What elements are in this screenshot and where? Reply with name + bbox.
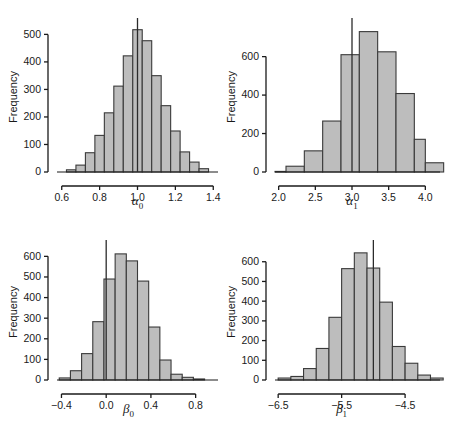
histogram-bar xyxy=(323,121,341,172)
histogram-bar xyxy=(341,55,359,172)
histogram-bar xyxy=(316,348,329,380)
histogram-bars xyxy=(278,253,443,380)
histogram-bar xyxy=(85,153,94,172)
x-axis-tick-label: −6.5 xyxy=(268,399,289,411)
histogram-bar xyxy=(380,302,393,380)
histogram-bar xyxy=(425,163,443,172)
y-axis-tick-label: 300 xyxy=(23,312,41,324)
histogram-bar xyxy=(115,254,126,380)
x-axis-tick-label: 3.5 xyxy=(381,191,396,203)
histogram-bar xyxy=(342,269,355,380)
panel-alpha0-plot: 0100200300400500Frequency0.60.81.01.21.4… xyxy=(0,0,226,216)
x-axis-title-subscript: 0 xyxy=(139,201,144,211)
y-axis-tick-label: 200 xyxy=(241,127,259,139)
y-axis-title: Frequency xyxy=(7,71,19,123)
histogram-bar xyxy=(76,165,85,172)
histogram-bar xyxy=(95,135,104,172)
histogram-bar xyxy=(359,32,377,172)
histogram-bars xyxy=(275,32,444,172)
y-axis-title: Frequency xyxy=(225,71,237,123)
y-axis-tick-label: 0 xyxy=(35,165,41,177)
histogram-bar xyxy=(396,94,414,172)
y-axis-tick-label: 100 xyxy=(23,353,41,365)
histogram-figure: 0100200300400500Frequency0.60.81.01.21.4… xyxy=(0,0,451,432)
y-axis-tick-label: 400 xyxy=(23,291,41,303)
y-axis-tick-label: 0 xyxy=(253,165,259,177)
x-axis-tick-label: 1.2 xyxy=(168,191,183,203)
y-axis-tick-label: 500 xyxy=(23,270,41,282)
histogram-bar xyxy=(93,322,104,380)
histogram-bar xyxy=(392,346,405,380)
histogram-bar xyxy=(82,354,93,380)
histogram-bar xyxy=(304,151,322,172)
y-axis-tick-label: 600 xyxy=(241,50,259,62)
x-axis-tick-label: 0.4 xyxy=(144,399,159,411)
x-axis-tick-label: 2.0 xyxy=(271,191,286,203)
histogram-bar xyxy=(138,281,149,380)
y-axis-tick-label: 200 xyxy=(23,332,41,344)
histogram-bar xyxy=(304,369,317,380)
y-axis-tick-label: 0 xyxy=(253,373,259,385)
histogram-bar xyxy=(160,360,171,380)
histogram-bar xyxy=(152,76,161,172)
y-axis-tick-label: 600 xyxy=(241,255,259,267)
x-axis-title-subscript: 1 xyxy=(353,201,358,211)
histogram-bar xyxy=(190,162,199,172)
y-axis-tick-label: 300 xyxy=(241,314,259,326)
histogram-bar xyxy=(114,86,123,172)
histogram-bar xyxy=(286,166,304,172)
y-axis-tick-label: 0 xyxy=(35,373,41,385)
y-axis-title: Frequency xyxy=(7,286,19,338)
y-axis-tick-label: 300 xyxy=(23,83,41,95)
histogram-bar xyxy=(354,253,367,380)
histogram-bar xyxy=(405,363,418,380)
histogram-bar xyxy=(126,261,137,380)
y-axis-title: Frequency xyxy=(225,286,237,338)
histogram-bar xyxy=(329,317,342,380)
y-axis-tick-label: 600 xyxy=(23,250,41,262)
x-axis-title-subscript: 0 xyxy=(130,409,135,419)
x-axis-title: β0 xyxy=(122,401,134,419)
x-axis-tick-label: −4.5 xyxy=(395,399,416,411)
x-axis-tick-label: 1.4 xyxy=(206,191,221,203)
y-axis-tick-label: 200 xyxy=(241,334,259,346)
histogram-bar xyxy=(70,371,81,380)
y-axis-tick-label: 500 xyxy=(23,28,41,40)
histogram-bar xyxy=(142,41,151,172)
histogram-bar xyxy=(123,56,132,172)
panel-beta1-plot: 0100200300400500600Frequency−6.5−5.5−4.5… xyxy=(225,216,451,432)
histogram-bars xyxy=(59,254,204,380)
panel-alpha1: 0200400600Frequency2.02.53.03.54.0α1 xyxy=(225,0,451,216)
histogram-bar xyxy=(418,375,431,380)
x-axis-tick-label: 4.0 xyxy=(418,191,433,203)
panel-beta0-plot: 0100200300400500600Frequency−0.40.00.40.… xyxy=(0,216,226,432)
panel-beta0: 0100200300400500600Frequency−0.40.00.40.… xyxy=(0,216,226,432)
histogram-bar xyxy=(180,152,189,172)
x-axis-title-subscript: 1 xyxy=(343,409,348,419)
histogram-bar xyxy=(161,106,170,172)
panel-alpha0: 0100200300400500Frequency0.60.81.01.21.4… xyxy=(0,0,226,216)
x-axis-tick-label: 2.5 xyxy=(308,191,323,203)
histogram-bar xyxy=(171,131,180,172)
y-axis-tick-label: 100 xyxy=(241,354,259,366)
histogram-bar xyxy=(378,52,396,172)
x-axis-tick-label: 0.6 xyxy=(54,191,69,203)
x-axis-tick-label: 0.8 xyxy=(92,191,107,203)
histogram-bar xyxy=(104,113,113,172)
histogram-bar xyxy=(171,374,182,380)
y-axis-tick-label: 400 xyxy=(241,295,259,307)
y-axis-tick-label: 400 xyxy=(23,55,41,67)
x-axis-tick-label: 0.0 xyxy=(99,399,114,411)
y-axis-tick-label: 400 xyxy=(241,88,259,100)
x-axis-tick-label: −0.4 xyxy=(51,399,72,411)
y-axis-tick-label: 100 xyxy=(23,138,41,150)
histogram-bar xyxy=(149,327,160,380)
histogram-bar xyxy=(414,139,425,172)
panel-beta1: 0100200300400500600Frequency−6.5−5.5−4.5… xyxy=(225,216,451,432)
y-axis-tick-label: 200 xyxy=(23,110,41,122)
x-axis-tick-label: 0.8 xyxy=(188,399,203,411)
y-axis-tick-label: 500 xyxy=(241,275,259,287)
panel-alpha1-plot: 0200400600Frequency2.02.53.03.54.0α1 xyxy=(225,0,451,216)
